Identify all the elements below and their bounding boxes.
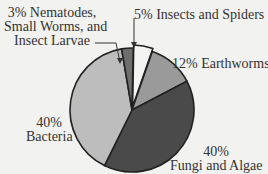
label-nematodes-line3: Insect Larvae: [4, 34, 100, 48]
label-bacteria-name: Bacteria: [26, 130, 72, 144]
label-fungi: 40% Fungi and Algae: [170, 145, 262, 173]
label-nematodes: 3% Nematodes, Small Worms, and Insect La…: [4, 6, 100, 48]
label-insects: 5% Insects and Spiders: [134, 8, 264, 22]
label-nematodes-line1: 3% Nematodes,: [4, 6, 100, 20]
label-fungi-name: Fungi and Algae: [170, 159, 262, 173]
label-nematodes-line2: Small Worms, and: [4, 20, 100, 34]
label-bacteria: 40% Bacteria: [26, 116, 72, 144]
label-earthworms: 12% Earthworms: [172, 57, 268, 71]
label-fungi-pct: 40%: [170, 145, 262, 159]
label-bacteria-pct: 40%: [26, 116, 72, 130]
